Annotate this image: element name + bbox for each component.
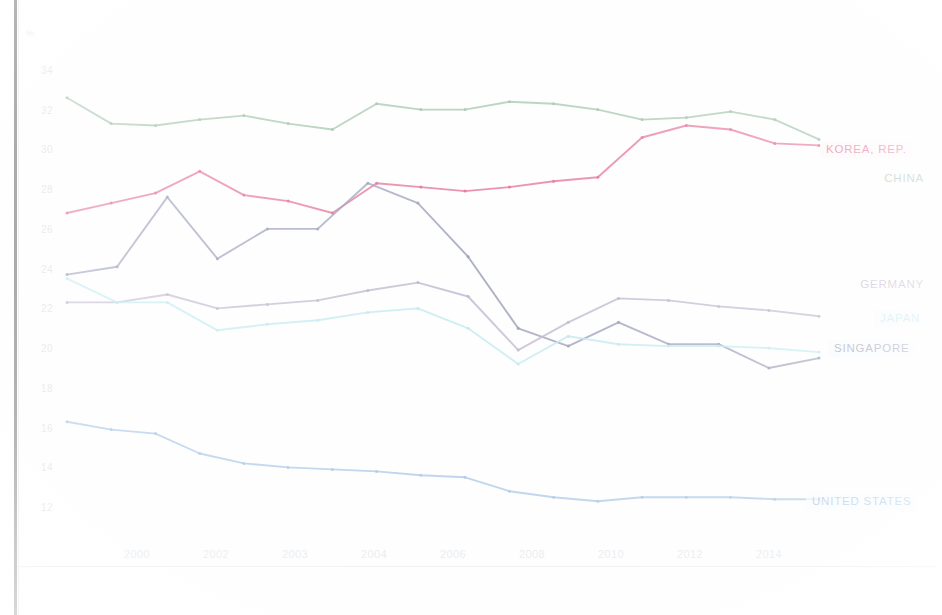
- legend-label-japan: JAPAN: [874, 310, 926, 327]
- data-point: [567, 345, 570, 348]
- x-tick-label: 2003: [272, 548, 318, 560]
- data-point: [773, 142, 776, 145]
- data-point: [717, 345, 720, 348]
- y-tick-label: 24: [27, 264, 53, 275]
- data-point: [287, 466, 290, 469]
- y-tick-label: 34: [27, 65, 53, 76]
- data-point: [66, 212, 69, 215]
- data-point: [552, 180, 555, 183]
- data-point: [508, 490, 511, 493]
- y-tick-label: 26: [27, 224, 53, 235]
- series-korea-rep: [66, 124, 821, 215]
- y-tick-label: 22: [27, 303, 53, 314]
- y-tick-label: 30: [27, 144, 53, 155]
- data-point: [66, 420, 69, 423]
- data-point: [467, 295, 470, 298]
- data-point: [517, 349, 520, 352]
- data-point: [166, 196, 169, 199]
- data-point: [685, 496, 688, 499]
- data-point: [110, 202, 113, 205]
- data-point: [818, 315, 821, 318]
- data-point: [729, 128, 732, 131]
- data-point: [596, 108, 599, 111]
- data-point: [166, 301, 169, 304]
- data-point: [667, 345, 670, 348]
- x-tick-label: 2012: [667, 548, 713, 560]
- data-point: [166, 293, 169, 296]
- data-point: [316, 299, 319, 302]
- data-point: [331, 468, 334, 471]
- data-point: [416, 307, 419, 310]
- data-point: [375, 102, 378, 105]
- y-tick-label: 14: [27, 462, 53, 473]
- y-tick-label: 20: [27, 343, 53, 354]
- data-point: [685, 124, 688, 127]
- series-united-states: [66, 420, 821, 503]
- data-point: [467, 327, 470, 330]
- series-line: [67, 98, 819, 140]
- data-point: [66, 301, 69, 304]
- data-point: [216, 329, 219, 332]
- data-point: [266, 227, 269, 230]
- data-point: [366, 182, 369, 185]
- x-tick-label: 2010: [588, 548, 634, 560]
- data-point: [596, 176, 599, 179]
- series-china: [66, 96, 821, 141]
- data-point: [508, 100, 511, 103]
- page-left-border: [14, 0, 17, 615]
- data-point: [508, 186, 511, 189]
- x-tick-label: 2006: [430, 548, 476, 560]
- data-point: [216, 257, 219, 260]
- data-point: [266, 303, 269, 306]
- data-point: [198, 118, 201, 121]
- y-axis-unit-label: %: [26, 28, 34, 38]
- y-tick-label: 28: [27, 184, 53, 195]
- data-point: [667, 299, 670, 302]
- x-tick-label: 2002: [193, 548, 239, 560]
- data-point: [66, 273, 69, 276]
- data-point: [110, 122, 113, 125]
- data-point: [66, 277, 69, 280]
- x-tick-label: 2004: [351, 548, 397, 560]
- data-point: [552, 496, 555, 499]
- data-point: [366, 311, 369, 314]
- data-point: [198, 170, 201, 173]
- data-point: [110, 428, 113, 431]
- data-point: [242, 194, 245, 197]
- data-point: [552, 102, 555, 105]
- data-point: [66, 96, 69, 99]
- data-point: [641, 496, 644, 499]
- legend-label-germany: GERMANY: [854, 276, 930, 293]
- data-point: [464, 108, 467, 111]
- data-point: [375, 182, 378, 185]
- chart-page: % 343230282624222018161412 2000200220032…: [0, 0, 942, 615]
- data-point: [773, 118, 776, 121]
- data-point: [717, 305, 720, 308]
- data-point: [729, 496, 732, 499]
- y-tick-label: 32: [27, 105, 53, 116]
- line-chart-svg: [19, 24, 937, 557]
- data-point: [419, 474, 422, 477]
- data-point: [773, 498, 776, 501]
- x-tick-label: 2008: [509, 548, 555, 560]
- data-point: [567, 321, 570, 324]
- data-point: [517, 327, 520, 330]
- data-point: [767, 309, 770, 312]
- legend-label-china: CHINA: [878, 170, 930, 187]
- data-point: [154, 432, 157, 435]
- data-point: [517, 363, 520, 366]
- data-point: [685, 116, 688, 119]
- data-point: [729, 110, 732, 113]
- data-point: [416, 202, 419, 205]
- data-point: [767, 347, 770, 350]
- data-point: [316, 319, 319, 322]
- legend-label-korea-rep: KOREA, REP.: [820, 141, 913, 158]
- data-point: [366, 289, 369, 292]
- series-singapore: [66, 182, 821, 370]
- series-line: [67, 422, 819, 502]
- series-line: [67, 279, 819, 364]
- data-point: [567, 335, 570, 338]
- y-tick-label: 12: [27, 502, 53, 513]
- y-tick-label: 16: [27, 423, 53, 434]
- data-point: [596, 500, 599, 503]
